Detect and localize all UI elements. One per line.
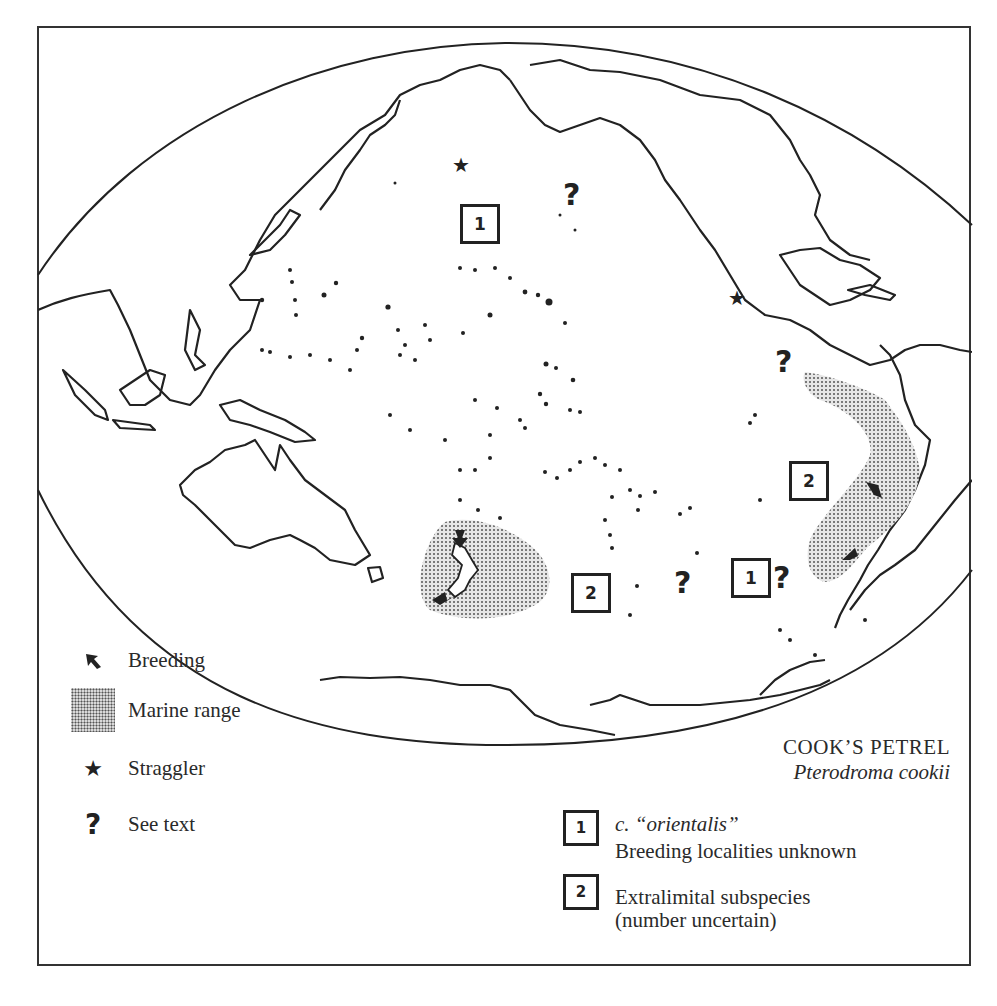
question-mark-south-pacific: ? [674, 568, 691, 598]
subspecies-legend-item-1: 1 c. “orientalis” Breeding localities un… [563, 810, 599, 846]
legend-label-straggler: Straggler [128, 756, 205, 781]
straggler-star-bering: ★ [452, 153, 470, 177]
subspecies-box-1-north: 1 [460, 204, 500, 244]
legend-label-see-text: See text [128, 812, 195, 837]
kamchatka-coastline [320, 100, 400, 210]
star-icon: ★ [83, 756, 103, 781]
legend-label-marine-range: Marine range [128, 698, 241, 723]
question-mark-north-pacific: ? [563, 180, 580, 210]
legend-item-see-text: ? See text [70, 808, 195, 841]
stipple-swatch-icon [71, 688, 115, 732]
legend-item-straggler: ★ Straggler [70, 756, 205, 781]
philippines-outline [185, 310, 205, 370]
scientific-name: Pterodroma cookii [740, 760, 950, 785]
straggler-star-mexico: ★ [728, 286, 746, 310]
subspecies-box-2-nz: 2 [571, 573, 611, 613]
subspecies-legend-item-2: 2 Extralimital subspecies (number uncert… [563, 874, 599, 910]
asia-coastline [38, 65, 510, 405]
subspecies-1-note: Breeding localities unknown [615, 840, 856, 863]
subspecies-1-name: c. “orientalis” [615, 813, 739, 836]
question-mark-mexico: ? [775, 347, 792, 377]
java-outline [113, 420, 155, 430]
gulf-mexico-coastline [780, 248, 880, 305]
subspecies-number-box-2: 2 [563, 874, 599, 910]
antarctica-coastline [320, 677, 830, 735]
subspecies-number-box-1: 1 [563, 810, 599, 846]
sumatra-outline [63, 370, 108, 420]
subspecies-box-1-south: 1 [731, 558, 771, 598]
map-title: COOK’S PETREL Pterodroma cookii [740, 735, 950, 785]
common-name: COOK’S PETREL [740, 735, 950, 760]
question-mark-chile: ? [773, 563, 790, 593]
legend-label-breeding: Breeding [128, 648, 205, 673]
question-mark-icon: ? [85, 808, 101, 841]
subspecies-2-name: Extralimital subspecies [615, 886, 810, 909]
subspecies-2-note: (number uncertain) [615, 909, 777, 932]
australia-outline [180, 440, 370, 565]
legend-item-breeding: Breeding [70, 648, 205, 673]
subspecies-box-2-sa: 2 [789, 461, 829, 501]
north-america-coastline [510, 80, 972, 365]
legend-item-marine-range: Marine range [70, 688, 241, 732]
tasmania-outline [368, 567, 383, 582]
new-guinea-outline [220, 400, 315, 442]
breeding-arrow-icon [83, 651, 103, 671]
